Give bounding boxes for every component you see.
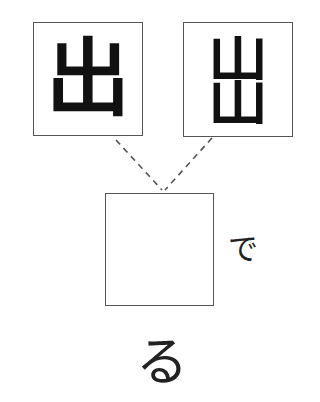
dashed-line-right — [165, 138, 212, 190]
kanji-box-left: 出 — [33, 22, 143, 136]
kanji-box-right: 山 山 — [183, 22, 293, 137]
kanji-left: 出 — [46, 37, 130, 121]
kanji-right-stacked: 山 山 — [208, 36, 268, 124]
kanji-right-top-part: 山 — [208, 36, 268, 80]
suffix-kana-right: で — [228, 234, 258, 264]
kanji-right-bottom-part: 山 — [208, 80, 268, 124]
suffix-kana-below: る — [136, 336, 188, 388]
dashed-line-left — [116, 140, 162, 190]
answer-box[interactable] — [105, 193, 214, 306]
